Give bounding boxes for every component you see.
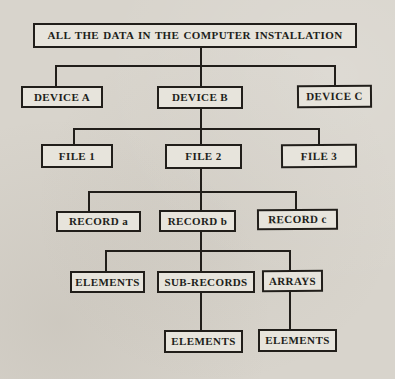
node-sub-records: SUB-RECORDS [157,271,255,293]
connector-record-a-drop [88,191,90,211]
connector-device-b-drop [200,65,202,86]
node-elements-under-sub-records: ELEMENTS [164,330,243,353]
node-device-c: DEVICE C [297,85,372,109]
connector-devices-rail [55,65,336,67]
node-file-2: FILE 2 [165,144,242,169]
connector-record-c-drop [295,191,297,209]
connector-files-rail [73,128,320,130]
connector-file-3-drop [318,128,320,144]
connector-arrays-to-elements [289,291,291,329]
connector-sub-records-to-elements [200,292,202,330]
connector-record-b-drop [200,191,202,210]
connector-file-2-drop [200,128,202,144]
connector-device-c-drop [334,65,336,85]
node-file-1: FILE 1 [41,144,113,168]
node-record-c: RECORD c [257,209,338,231]
node-elements-under-arrays: ELEMENTS [258,329,337,352]
node-file-3: FILE 3 [281,144,357,169]
connector-arrays-drop [289,250,291,270]
connector-records-rail [88,191,297,193]
node-device-b: DEVICE B [157,86,243,109]
connector-device-b-stem [200,108,202,129]
node-arrays: ARRAYS [262,270,323,292]
node-elements-under-record-b: ELEMENTS [70,271,145,293]
connector-elements-drop [105,250,107,271]
node-record-b: RECORD b [159,210,236,232]
tree-diagram: ALL THE DATA IN THE COMPUTER INSTALLATIO… [0,0,395,379]
connector-record-b-children-rail [105,250,291,252]
node-root-all-data: ALL THE DATA IN THE COMPUTER INSTALLATIO… [33,23,357,48]
connector-sub-records-drop [200,250,202,271]
connector-record-b-stem [200,231,202,251]
connector-file-2-stem [200,168,202,192]
connector-file-1-drop [73,128,75,144]
node-record-a: RECORD a [56,211,141,232]
connector-device-a-drop [55,65,57,86]
connector-root-stem [200,47,202,67]
node-device-a: DEVICE A [21,86,103,108]
